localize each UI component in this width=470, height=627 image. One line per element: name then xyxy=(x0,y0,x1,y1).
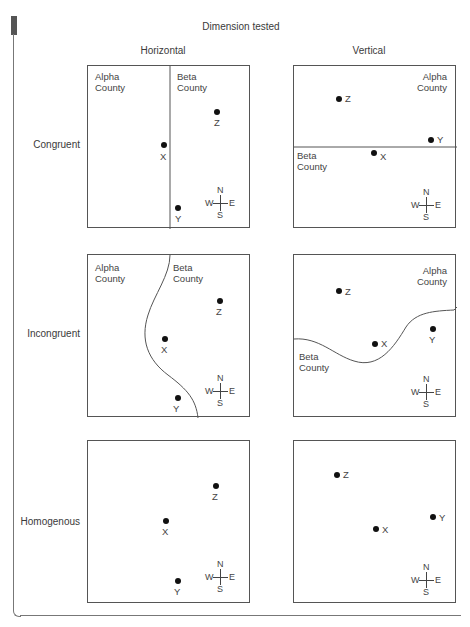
compass-rose-icon: N W E S xyxy=(205,374,235,408)
compass-rose-icon: N W E S xyxy=(205,560,235,594)
column-header-horizontal: Horizontal xyxy=(140,45,185,56)
point-y-marker xyxy=(430,326,436,332)
point-x-label: X xyxy=(161,345,167,355)
row-label-congruent: Congruent xyxy=(0,139,80,150)
row-label-incongruent: Incongruent xyxy=(0,328,80,339)
point-y-label: Y xyxy=(437,135,443,145)
point-x-marker xyxy=(163,518,169,524)
compass-rose-icon: N W E S xyxy=(411,188,441,222)
point-x-label: X xyxy=(162,527,168,537)
point-z-marker xyxy=(334,472,340,478)
point-y-label: Y xyxy=(173,404,179,414)
point-y-marker xyxy=(175,205,181,211)
point-y-marker xyxy=(175,578,181,584)
panel-incongruent-vertical: AlphaCounty BetaCounty Z X Y N W E S xyxy=(293,254,456,417)
compass-rose-icon: N W E S xyxy=(411,375,441,409)
point-x-marker xyxy=(162,336,168,342)
alpha-county-label: AlphaCounty xyxy=(95,71,125,93)
point-y-label: Y xyxy=(429,335,435,345)
compass-rose-icon: N W E S xyxy=(411,563,441,597)
point-x-marker xyxy=(161,142,167,148)
bracket-marker xyxy=(11,16,17,35)
point-x-label: X xyxy=(382,525,388,535)
point-z-marker xyxy=(336,288,342,294)
point-z-marker xyxy=(336,96,342,102)
point-x-label: X xyxy=(381,339,387,349)
point-z-label: Z xyxy=(216,307,222,317)
alpha-county-label: AlphaCounty xyxy=(95,262,125,284)
point-z-label: Z xyxy=(343,470,349,480)
compass-rose-icon: N W E S xyxy=(205,186,235,220)
point-x-marker xyxy=(373,526,379,532)
point-z-label: Z xyxy=(345,94,351,104)
point-x-label: X xyxy=(160,152,166,162)
point-y-label: Y xyxy=(439,513,445,523)
point-y-label: Y xyxy=(174,587,180,597)
panel-homogenous-vertical: Z X Y N W E S xyxy=(293,440,456,603)
alpha-county-label: AlphaCounty xyxy=(417,265,447,287)
point-x-label: X xyxy=(380,152,386,162)
row-label-homogenous: Homogenous xyxy=(0,516,80,527)
beta-county-label: BetaCounty xyxy=(173,262,203,284)
point-z-marker xyxy=(214,109,220,115)
point-y-marker xyxy=(175,395,181,401)
point-z-marker xyxy=(213,483,219,489)
point-x-marker xyxy=(372,341,378,347)
point-y-label: Y xyxy=(175,214,181,224)
point-z-label: Z xyxy=(214,118,220,128)
point-x-marker xyxy=(371,150,377,156)
panel-congruent-vertical: AlphaCounty BetaCounty Z Y X N W E S xyxy=(293,65,456,228)
bottom-rule xyxy=(20,615,461,616)
panel-congruent-horizontal: AlphaCounty BetaCounty Z X Y N W E S xyxy=(87,65,250,228)
column-header-vertical: Vertical xyxy=(353,45,386,56)
beta-county-label: BetaCounty xyxy=(299,351,329,373)
beta-county-label: BetaCounty xyxy=(297,150,327,172)
panel-incongruent-horizontal: AlphaCounty BetaCounty Z X Y N W E S xyxy=(87,254,250,417)
point-y-marker xyxy=(428,137,434,143)
panel-homogenous-horizontal: Z X Y N W E S xyxy=(87,440,250,603)
point-z-marker xyxy=(217,298,223,304)
alpha-county-label: AlphaCounty xyxy=(417,71,447,93)
point-z-label: Z xyxy=(345,287,351,297)
point-z-label: Z xyxy=(212,492,218,502)
beta-county-label: BetaCounty xyxy=(177,71,207,93)
point-y-marker xyxy=(430,514,436,520)
figure-title: Dimension tested xyxy=(202,21,279,32)
bracket-line xyxy=(13,34,21,617)
